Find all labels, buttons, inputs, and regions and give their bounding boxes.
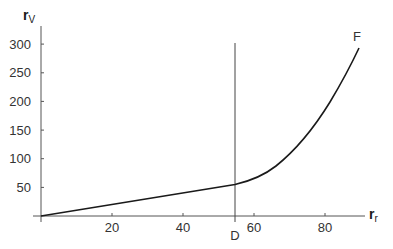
y-tick-label: 50 bbox=[17, 180, 31, 195]
y-tick-label: 200 bbox=[9, 94, 31, 109]
x-axis-label: rr bbox=[369, 206, 378, 224]
y-tick-label: 300 bbox=[9, 37, 31, 52]
y-tick-labels: 50 100 150 200 250 300 bbox=[9, 37, 31, 195]
vline-d-label: D bbox=[230, 228, 239, 243]
x-tick-label: 40 bbox=[176, 220, 190, 235]
x-tick-labels: 20 40 60 80 bbox=[105, 220, 332, 235]
y-tick-label: 250 bbox=[9, 65, 31, 80]
x-tick-label: 20 bbox=[105, 220, 119, 235]
y-tick-label: 150 bbox=[9, 123, 31, 138]
chart-canvas: 50 100 150 200 250 300 20 40 60 80 rV rr… bbox=[0, 0, 393, 249]
y-tick-label: 100 bbox=[9, 151, 31, 166]
x-axis-label-sub: r bbox=[374, 213, 378, 224]
x-tick-label: 60 bbox=[247, 220, 261, 235]
x-tick-label: 80 bbox=[318, 220, 332, 235]
y-axis-label-sub: V bbox=[28, 14, 35, 25]
data-curve bbox=[41, 48, 359, 216]
curve-end-label: F bbox=[353, 29, 361, 44]
y-axis-label: rV bbox=[23, 7, 35, 25]
